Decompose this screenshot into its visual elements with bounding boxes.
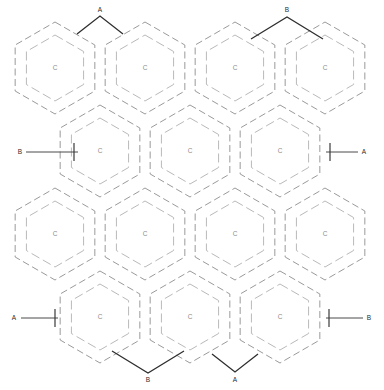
section-marker-label: B (146, 376, 150, 383)
section-marker-bottom-b: B (112, 351, 184, 383)
hex-cell-label: C (278, 313, 283, 320)
hex-cell: C (15, 22, 95, 114)
section-marker-top-b: B (251, 6, 323, 39)
hex-cell: C (105, 22, 185, 114)
section-marker-label: A (98, 6, 103, 13)
section-marker-bottom-right-b: B (326, 309, 371, 327)
section-marker-label: B (285, 6, 289, 13)
section-marker-bottom-left-a: A (12, 309, 58, 327)
hex-cell: C (105, 188, 185, 280)
hex-cell-label: C (323, 64, 328, 71)
section-marker-label: B (367, 314, 371, 321)
hex-cell: C (285, 188, 365, 280)
section-marker-label: A (233, 376, 238, 383)
hex-cell-label: C (53, 64, 58, 71)
section-cut-chevron (112, 351, 184, 373)
hex-cell-label: C (143, 230, 148, 237)
hex-cell: C (60, 271, 140, 363)
hex-cell-label: C (188, 147, 193, 154)
honeycomb-diagram: CCCCCCCCCCCCCC ABBAABBA (0, 0, 384, 390)
hex-cell-label: C (98, 313, 103, 320)
hex-cells-layer: CCCCCCCCCCCCCC (15, 22, 365, 363)
hex-cell: C (240, 105, 320, 197)
honeycomb-canvas: CCCCCCCCCCCCCC ABBAABBA (0, 0, 384, 390)
section-marker-right-a: A (326, 143, 367, 161)
section-marker-label: B (18, 148, 22, 155)
hex-cell-label: C (143, 64, 148, 71)
hex-cell-label: C (188, 313, 193, 320)
section-marker-left-b: B (18, 143, 78, 161)
section-marker-top-a: A (77, 6, 123, 34)
hex-cell-label: C (323, 230, 328, 237)
hex-cell-label: C (98, 147, 103, 154)
section-cut-chevron (212, 354, 258, 372)
hex-cell: C (150, 105, 230, 197)
hex-cell: C (60, 105, 140, 197)
hex-cell-label: C (233, 64, 238, 71)
hex-cell: C (195, 22, 275, 114)
hex-cell-label: C (53, 230, 58, 237)
section-cut-chevron (251, 17, 323, 39)
hex-cell-label: C (233, 230, 238, 237)
hex-cell: C (195, 188, 275, 280)
section-marker-bottom-a: A (212, 354, 258, 383)
section-marker-label: A (12, 314, 17, 321)
section-cut-chevron (77, 16, 123, 34)
hex-cell: C (150, 271, 230, 363)
hex-cell: C (15, 188, 95, 280)
hex-cell: C (285, 22, 365, 114)
hex-cell: C (240, 271, 320, 363)
section-marker-label: A (362, 148, 367, 155)
hex-cell-label: C (278, 147, 283, 154)
